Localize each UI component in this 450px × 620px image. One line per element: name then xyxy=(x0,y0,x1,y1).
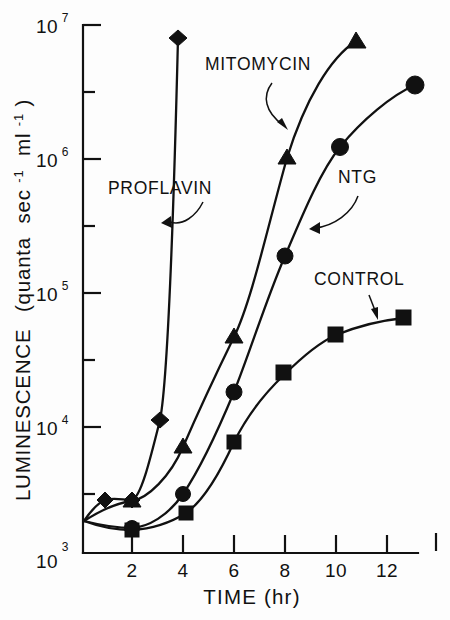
marker-square xyxy=(227,435,241,449)
x-tick-marks xyxy=(132,535,387,553)
y-axis-title-units-open: (quanta xyxy=(11,237,34,312)
series-label-proflavin: PROFLAVIN xyxy=(108,178,212,198)
y-axis-title-units-ml: ml xyxy=(11,133,34,156)
marker-diamond xyxy=(151,412,169,428)
x-label-10: 10 xyxy=(325,560,347,581)
marker-square xyxy=(179,506,193,520)
y-axis-title-group: LUMINESCENCE (quanta sec -1 ml -1 ) xyxy=(4,99,34,501)
x-axis-title: TIME (hr) xyxy=(203,585,300,608)
chart-svg: 10 7 10 6 10 5 10 4 10 3 2 4 6 8 10 xyxy=(0,0,450,620)
marker-square xyxy=(328,327,343,342)
x-label-2: 2 xyxy=(126,560,137,581)
marker-circle xyxy=(226,384,242,400)
y-label-1e4-base: 10 xyxy=(36,418,58,439)
curve-ntg xyxy=(84,85,415,528)
y-label-1e7-base: 10 xyxy=(36,16,58,37)
annotation-arrow-ntg xyxy=(309,196,358,234)
curve-proflavin xyxy=(84,38,178,521)
x-label-4: 4 xyxy=(177,560,188,581)
marker-circle xyxy=(406,76,424,94)
svg-text:LUMINESCENCE (quanta: LUMINESCENCE (quanta sec -1 ml -1 ) xyxy=(4,99,34,501)
marker-circle xyxy=(176,487,191,502)
y-tick-labels: 10 7 10 6 10 5 10 4 10 3 xyxy=(36,11,69,572)
y-axis-title-main: LUMINESCENCE xyxy=(11,329,34,502)
markers-proflavin xyxy=(97,30,187,508)
marker-triangle xyxy=(347,32,366,48)
series-label-mitomycin: MITOMYCIN xyxy=(205,54,311,74)
y-label-1e4-exp: 4 xyxy=(62,413,69,427)
y-label-1e3-exp: 3 xyxy=(62,540,69,554)
y-label-1e3-base: 10 xyxy=(36,551,58,572)
y-label-1e6-exp: 6 xyxy=(62,145,69,159)
series-label-ntg: NTG xyxy=(338,167,377,187)
marker-triangle xyxy=(225,328,243,343)
y-axis-title-units-sec: sec xyxy=(11,189,34,223)
marker-circle xyxy=(332,139,349,156)
annotation-arrow-mitomycin xyxy=(266,83,288,130)
x-label-6: 6 xyxy=(228,560,239,581)
marker-diamond xyxy=(169,30,187,46)
y-label-1e5-exp: 5 xyxy=(62,279,69,293)
y-label-1e6-base: 10 xyxy=(36,150,58,171)
annotation-arrow-proflavin xyxy=(161,202,203,228)
marker-square xyxy=(125,523,139,537)
figure-container: 10 7 10 6 10 5 10 4 10 3 2 4 6 8 10 xyxy=(0,0,450,620)
series-label-control: CONTROL xyxy=(314,269,404,289)
marker-triangle xyxy=(174,438,192,453)
marker-triangle xyxy=(278,149,296,164)
annotation-arrow-control xyxy=(369,295,378,320)
marker-square xyxy=(396,310,411,325)
x-tick-labels: 2 4 6 8 10 12 xyxy=(126,560,398,581)
y-label-1e5-base: 10 xyxy=(36,284,58,305)
y-axis-title-units-close: ) xyxy=(11,99,34,107)
y-axis-title-units-ml-exp: -1 xyxy=(11,113,26,126)
y-axis-title-units-sec-exp: -1 xyxy=(11,169,26,182)
marker-diamond xyxy=(97,492,113,508)
x-label-8: 8 xyxy=(279,560,290,581)
marker-circle xyxy=(277,248,293,264)
y-label-1e7-exp: 7 xyxy=(62,11,69,25)
x-label-12: 12 xyxy=(376,560,398,581)
marker-square xyxy=(276,365,291,380)
y-tick-marks xyxy=(83,25,101,494)
